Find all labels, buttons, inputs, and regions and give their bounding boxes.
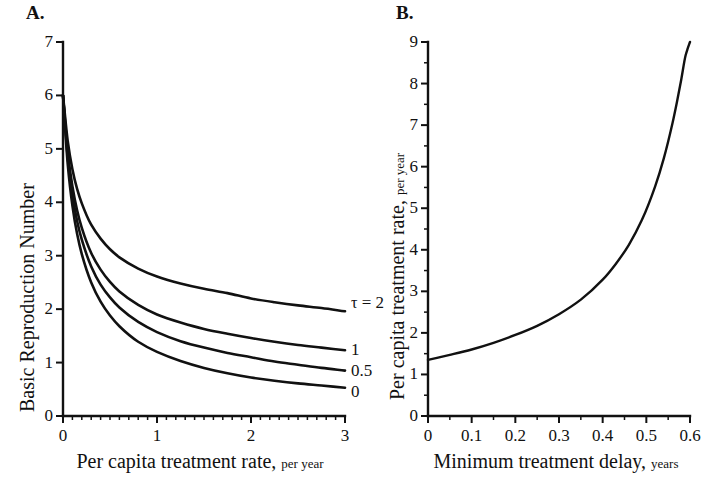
y-tick-label: 9 bbox=[390, 32, 418, 52]
panel-a-plot bbox=[0, 0, 360, 479]
y-tick-label: 5 bbox=[25, 139, 53, 159]
panel-b-y-axis-units: per year bbox=[392, 153, 407, 195]
x-tick-label: 0 bbox=[59, 426, 68, 446]
panel-b-x-axis-title: Minimum treatment delay, years bbox=[434, 450, 679, 473]
x-tick-label: 0.4 bbox=[592, 426, 613, 446]
panel-a: A. 012345670123 Per capita treatment rat… bbox=[0, 0, 360, 479]
curve-label: 0 bbox=[351, 382, 360, 402]
y-tick-label: 7 bbox=[25, 32, 53, 52]
y-tick-label: 6 bbox=[25, 85, 53, 105]
data-curve bbox=[63, 95, 345, 311]
x-tick-label: 0.6 bbox=[679, 426, 700, 446]
y-tick-label: 8 bbox=[390, 74, 418, 94]
panel-a-x-axis-units: per year bbox=[281, 456, 323, 471]
y-tick-label: 0 bbox=[390, 406, 418, 426]
tau-symbol: τ bbox=[351, 294, 357, 311]
x-tick-label: 3 bbox=[341, 426, 350, 446]
curve-label: 1 bbox=[351, 340, 360, 360]
panel-b-x-axis-units: years bbox=[651, 456, 678, 471]
data-curve bbox=[63, 95, 345, 387]
x-tick-label: 1 bbox=[153, 426, 162, 446]
panel-a-y-axis-title-main: Basic Reproduction Number bbox=[16, 183, 38, 412]
x-tick-label: 0.1 bbox=[461, 426, 482, 446]
data-curve bbox=[428, 42, 690, 360]
x-tick-label: 0 bbox=[424, 426, 433, 446]
panel-a-y-axis-title: Basic Reproduction Number bbox=[16, 183, 39, 412]
panel-a-x-axis-title: Per capita treatment rate, per year bbox=[76, 450, 323, 473]
y-tick-label: 7 bbox=[390, 115, 418, 135]
x-tick-label: 2 bbox=[247, 426, 256, 446]
x-tick-label: 0.5 bbox=[636, 426, 657, 446]
x-tick-label: 0.3 bbox=[548, 426, 569, 446]
panel-b: B. 012345678900.10.20.30.40.50.6 Minimum… bbox=[360, 0, 717, 479]
panel-b-x-axis-title-main: Minimum treatment delay, bbox=[434, 450, 647, 472]
panel-b-y-axis-title: Per capita treatment rate, per year bbox=[386, 153, 409, 400]
x-tick-label: 0.2 bbox=[505, 426, 526, 446]
figure-root: A. 012345670123 Per capita treatment rat… bbox=[0, 0, 717, 479]
panel-b-y-axis-title-main: Per capita treatment rate, bbox=[386, 200, 408, 400]
panel-a-x-axis-title-main: Per capita treatment rate, bbox=[76, 450, 276, 472]
data-curve bbox=[63, 95, 345, 350]
